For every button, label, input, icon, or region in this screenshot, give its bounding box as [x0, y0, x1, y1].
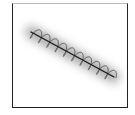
axis-line — [31, 32, 114, 77]
helix-diagram — [0, 0, 135, 115]
